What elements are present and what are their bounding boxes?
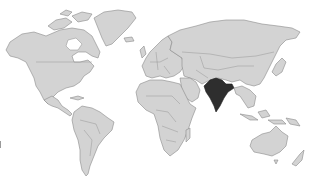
region-caribbean[interactable]	[70, 96, 84, 100]
region-tasmania[interactable]	[274, 160, 278, 164]
region-uk[interactable]	[140, 46, 146, 58]
region-arctic-islands[interactable]	[48, 10, 92, 30]
region-iceland[interactable]	[124, 37, 134, 42]
region-papua-new-guinea[interactable]	[286, 118, 300, 126]
region-new-zealand[interactable]	[292, 150, 304, 166]
region-japan[interactable]	[272, 58, 286, 76]
region-central-america[interactable]	[44, 96, 72, 116]
region-indonesia[interactable]	[240, 110, 286, 124]
region-russia-asia[interactable]	[168, 20, 300, 86]
region-australia[interactable]	[250, 126, 288, 156]
region-india[interactable]	[204, 78, 234, 112]
region-south-america[interactable]	[72, 106, 114, 176]
world-map	[0, 0, 311, 183]
world-map-svg	[0, 0, 311, 183]
region-north-america[interactable]	[6, 28, 100, 104]
region-madagascar[interactable]	[186, 128, 190, 142]
edge-artifact	[0, 141, 1, 148]
region-southeast-asia[interactable]	[234, 86, 256, 108]
